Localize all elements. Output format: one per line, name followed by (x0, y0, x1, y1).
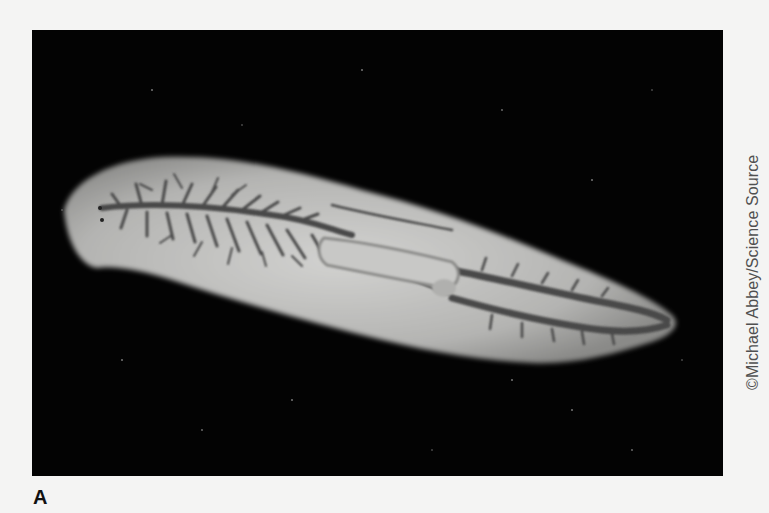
eyespot-right (100, 218, 104, 222)
flatworm-illustration (32, 30, 723, 476)
flatworm-photo (32, 30, 723, 476)
panel-label: A (33, 486, 47, 509)
photo-credit: ©Michael Abbey/Science Source (744, 155, 762, 390)
eyespot-left (98, 206, 102, 210)
